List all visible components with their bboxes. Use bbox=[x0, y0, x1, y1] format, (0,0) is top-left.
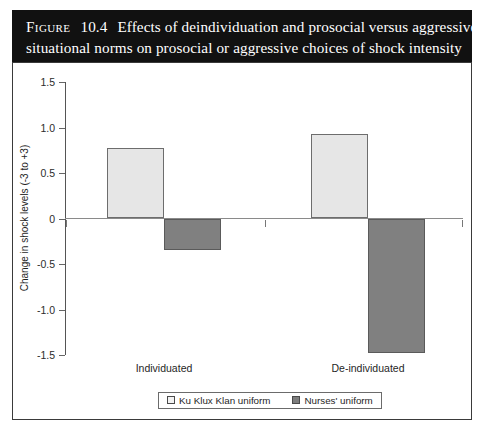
legend-item-ku-klux-klan-uniform[interactable]: Ku Klux Klan uniform bbox=[167, 395, 270, 406]
figure-page: Figure10.4Effects of deindividuation and… bbox=[0, 0, 489, 432]
bar-individuated-ku-klux-klan-uniform bbox=[107, 148, 164, 219]
y-axis-tick bbox=[59, 128, 65, 129]
figure-number: 10.4 bbox=[80, 18, 107, 35]
x-axis-category-label: De-individuated bbox=[332, 362, 405, 374]
chart-legend: Ku Klux Klan uniform Nurses' uniform bbox=[158, 392, 382, 409]
figure-title-line-2: situational norms on prosocial or aggres… bbox=[26, 37, 460, 58]
figure-caption-line-2: situational norms on prosocial or aggres… bbox=[26, 39, 462, 56]
y-axis-title: Change in shock levels (-3 to +3) bbox=[19, 145, 30, 291]
y-axis-tick bbox=[59, 219, 65, 220]
x-axis-tick bbox=[265, 220, 266, 227]
x-axis-tick bbox=[66, 220, 67, 227]
x-axis-category-label: Individuated bbox=[136, 362, 193, 374]
legend-label-nurses-uniform: Nurses' uniform bbox=[304, 395, 372, 406]
y-axis-tick bbox=[59, 355, 65, 356]
y-axis-tick bbox=[59, 82, 65, 83]
legend-swatch-icon-light bbox=[167, 396, 175, 404]
y-axis-tick-label: -0.5 bbox=[37, 258, 55, 270]
figure-title-line-1: Figure10.4Effects of deindividuation and… bbox=[26, 16, 460, 37]
y-axis-tick-label: 0.5 bbox=[40, 167, 55, 179]
figure-label: Figure bbox=[26, 18, 70, 35]
y-axis-tick bbox=[59, 310, 65, 311]
x-axis-tick bbox=[462, 220, 463, 227]
figure-title-band: Figure10.4Effects of deindividuation and… bbox=[12, 10, 472, 62]
legend-swatch-icon-dark bbox=[292, 396, 300, 404]
bar-de-individuated-ku-klux-klan-uniform bbox=[311, 134, 368, 219]
y-axis-tick-label: 0 bbox=[49, 213, 55, 225]
bar-individuated-nurses-uniform bbox=[164, 219, 221, 251]
y-axis-tick-label: 1.0 bbox=[40, 122, 55, 134]
y-axis-tick bbox=[59, 173, 65, 174]
y-axis-tick bbox=[59, 264, 65, 265]
y-axis-tick-label: -1.5 bbox=[37, 349, 55, 361]
y-axis-tick-label: 1.5 bbox=[40, 76, 55, 88]
legend-item-nurses-uniform[interactable]: Nurses' uniform bbox=[292, 395, 372, 406]
y-axis-tick-label: -1.0 bbox=[37, 304, 55, 316]
bar-de-individuated-nurses-uniform bbox=[368, 219, 425, 354]
figure-caption-line-1: Effects of deindividuation and prosocial… bbox=[117, 18, 477, 35]
legend-label-ku-klux-klan-uniform: Ku Klux Klan uniform bbox=[179, 395, 270, 406]
